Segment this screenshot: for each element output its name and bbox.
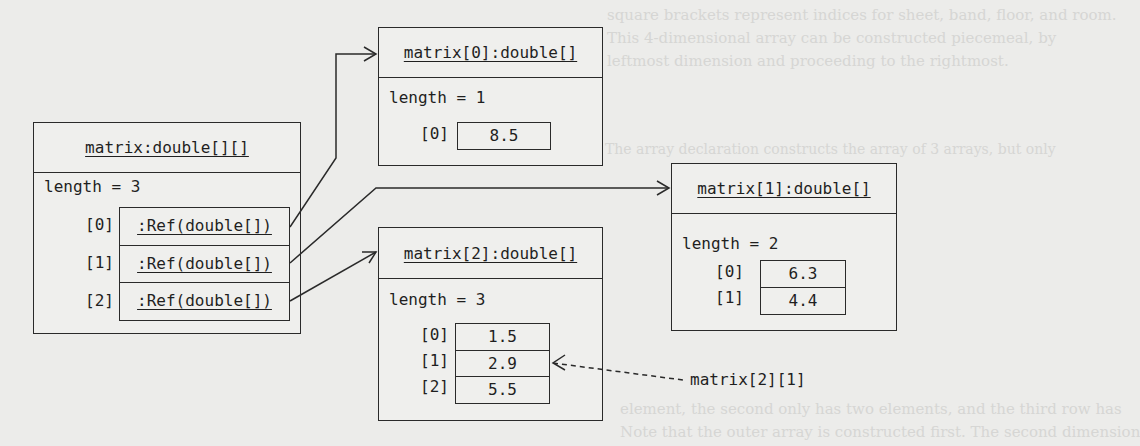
- arrow-ref-0: [290, 54, 376, 227]
- arrow-ref-2: [290, 252, 376, 301]
- annotation-label: matrix[2][1]: [690, 370, 806, 389]
- annotation-arrowhead: [553, 355, 565, 370]
- arrow-ref-1: [290, 188, 669, 263]
- annotation-dashed-line: [553, 363, 683, 380]
